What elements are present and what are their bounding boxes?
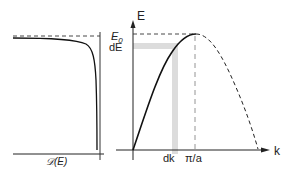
- dk-band: [172, 43, 178, 154]
- dos-panel: [13, 32, 104, 160]
- dispersion-diagram: E k E0 dE dk π/a 𝒟(E): [0, 0, 293, 171]
- k-axis-label: k: [274, 144, 281, 158]
- dos-axis-label: 𝒟(E): [46, 156, 67, 167]
- dispersion-curve-dashed: [196, 34, 258, 149]
- k-axis-arrow-icon: [261, 148, 270, 153]
- dispersion-curve-solid: [133, 34, 196, 150]
- de-label: dE: [109, 41, 122, 53]
- e-axis-label: E: [137, 9, 145, 23]
- dos-curve: [13, 38, 97, 150]
- de-band: [133, 43, 178, 49]
- dk-label: dk: [163, 152, 175, 164]
- dispersion-panel: E k E0 dE dk π/a: [109, 9, 281, 164]
- e-axis-arrow-icon: [131, 20, 136, 28]
- pi-a-label: π/a: [185, 152, 203, 164]
